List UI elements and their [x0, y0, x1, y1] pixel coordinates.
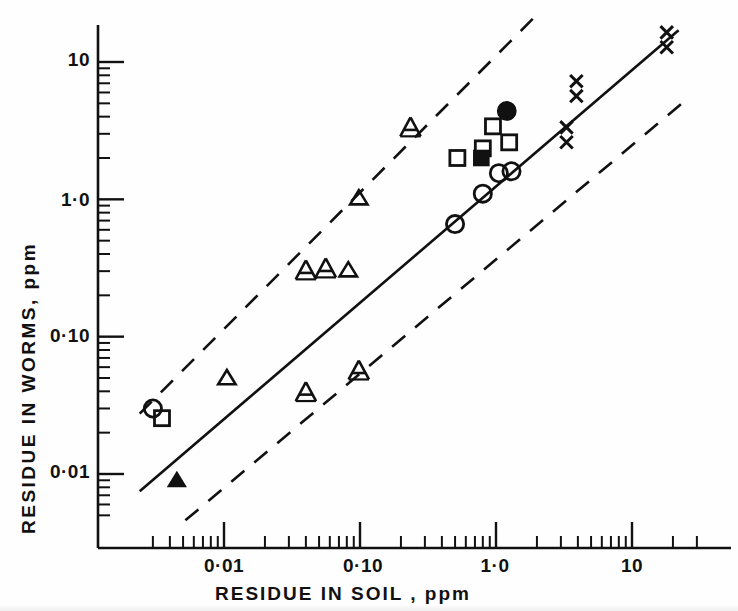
- data-point-filled-square: [474, 150, 489, 165]
- data-point-open-triangle: [340, 262, 357, 276]
- y-tick-label: 10: [68, 49, 90, 71]
- upper-confidence-limit: [140, 18, 534, 414]
- data-point-filled-triangle: [168, 472, 185, 486]
- x-tick-label: 0·01: [194, 555, 254, 577]
- y-axis-title: RESIDUE IN WORMS, ppm: [18, 242, 40, 534]
- y-tick-label: 0·01: [50, 461, 90, 483]
- a-marker-legs: [316, 258, 336, 277]
- x-glyph-upper: [570, 75, 582, 87]
- x-tick-label: 0·10: [333, 555, 393, 577]
- y-tick-label: 1·0: [61, 189, 90, 211]
- data-point-open-circle: [144, 400, 161, 417]
- figure-panel: RESIDUE IN WORMS, ppm RESIDUE IN SOIL , …: [0, 0, 738, 611]
- data-point-open-square: [154, 411, 169, 426]
- x-glyph-upper: [560, 121, 572, 133]
- data-point-letter-A-triangle: [316, 258, 336, 277]
- x-axis-title: RESIDUE IN SOIL , ppm: [215, 583, 471, 605]
- page-bottom-edge: [0, 605, 738, 611]
- x-glyph-lower: [570, 90, 582, 102]
- data-point-open-triangle: [350, 190, 367, 204]
- data-point-letter-A-triangle: [349, 361, 369, 380]
- data-point-letter-A-triangle: [296, 382, 316, 401]
- a-marker-legs: [296, 260, 316, 279]
- data-point-open-triangle: [218, 370, 235, 384]
- x-glyph-lower: [560, 136, 572, 148]
- data-point-filled-circle: [498, 102, 516, 120]
- plot-canvas: [0, 0, 738, 611]
- data-point-open-circle: [446, 216, 463, 233]
- x-tick-label: 10: [602, 555, 662, 577]
- y-tick-label: 0·10: [50, 325, 90, 347]
- x-tick-label: 1·0: [465, 555, 525, 577]
- data-point-open-square: [502, 135, 517, 150]
- data-point-open-square: [450, 150, 465, 165]
- data-point-open-circle: [503, 163, 520, 180]
- a-marker-legs: [349, 361, 369, 380]
- x-glyph-upper: [660, 26, 672, 38]
- data-point-open-square: [485, 119, 500, 134]
- a-marker-legs: [296, 382, 316, 401]
- regression-line: [140, 30, 679, 491]
- lower-confidence-limit: [185, 100, 686, 520]
- data-point-x-cross-pair: [570, 75, 582, 102]
- x-glyph-lower: [660, 41, 672, 53]
- data-point-letter-A-triangle: [296, 260, 316, 279]
